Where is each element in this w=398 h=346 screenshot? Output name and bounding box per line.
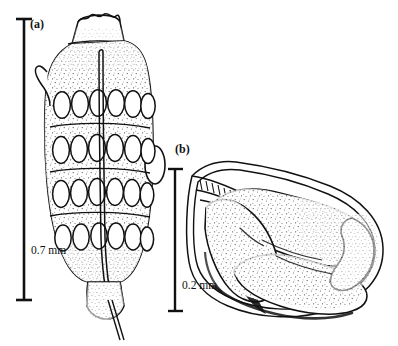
- scale-bar-b: [168, 169, 183, 311]
- figure-illustration: [0, 0, 398, 346]
- scale-bar-label-b: 0.2 mm: [182, 280, 217, 292]
- scale-bar-label-a: 0.7 mm: [31, 245, 66, 257]
- tapering-stalk: [84, 280, 128, 324]
- panel-label-b: (b): [175, 143, 190, 155]
- figure-root: (a) (b) 0.7 mm 0.2 mm: [0, 0, 398, 346]
- scale-bar-a: [16, 19, 32, 300]
- panel-label-a: (a): [30, 18, 44, 30]
- panel-b-drawing: [187, 162, 383, 319]
- cropped-caption-strip: [0, 336, 398, 346]
- panel-a-drawing: [35, 14, 165, 340]
